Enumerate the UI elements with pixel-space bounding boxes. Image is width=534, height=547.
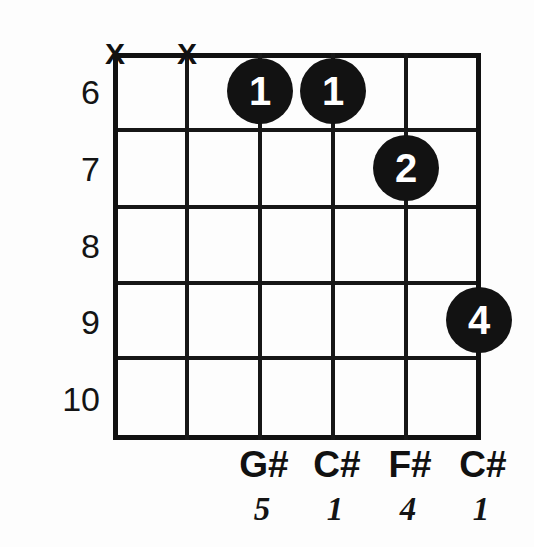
- fret-line-3: [113, 281, 481, 285]
- string-line-2: [185, 53, 189, 440]
- muted-string-marker-1: X: [101, 40, 129, 68]
- fret-line-2: [113, 205, 481, 209]
- muted-string-marker-2: X: [173, 40, 201, 68]
- finger-dot-string4-fret6: 1: [300, 58, 366, 124]
- fret-line-4: [113, 356, 481, 360]
- interval-string6: 1: [436, 492, 526, 526]
- string-line-6: [476, 53, 481, 440]
- string-line-1: [113, 53, 118, 440]
- fret-line-bottom: [113, 435, 481, 440]
- string-line-5: [404, 53, 408, 440]
- finger-dot-string3-fret6: 1: [227, 58, 293, 124]
- fret-line-1: [113, 128, 481, 132]
- fret-line-top: [113, 53, 481, 58]
- fret-number-8: 8: [30, 229, 100, 263]
- fret-number-9: 9: [30, 305, 100, 339]
- fret-number-10: 10: [30, 382, 100, 416]
- note-name-string6: C#: [438, 446, 528, 484]
- fret-number-7: 7: [30, 152, 100, 186]
- guitar-chord-diagram: 6 7 8 9 10 X X 1 1 2 4 G# C# F# C# 5 1 4…: [0, 0, 534, 547]
- fret-number-6: 6: [30, 75, 100, 109]
- finger-dot-string5-fret7: 2: [373, 135, 439, 201]
- finger-dot-string6-fret9: 4: [446, 287, 512, 353]
- fretboard-grid: [113, 53, 481, 440]
- fret-number-column: 6 7 8 9 10: [20, 53, 100, 440]
